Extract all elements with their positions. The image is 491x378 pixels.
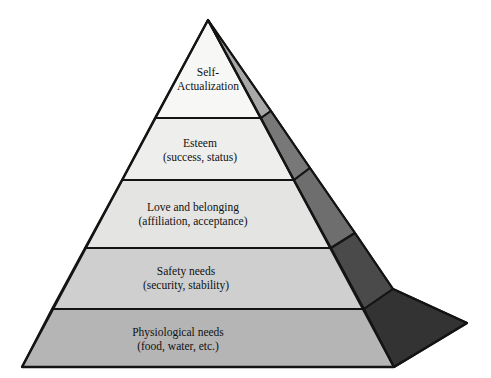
tier-label-line2: (security, stability): [0, 279, 372, 293]
tier-label-love-and-belonging: Love and belonging (affiliation, accepta…: [0, 201, 386, 228]
tier-label-line2: (affiliation, acceptance): [0, 215, 386, 229]
tier-label-self-actualization: Self- Actualization: [0, 66, 416, 93]
pyramid-diagram: Self- Actualization Esteem (success, sta…: [0, 0, 491, 378]
tier-label-line1: Safety needs: [0, 265, 372, 279]
tier-label-line2: (success, status): [0, 151, 400, 165]
tier-label-esteem: Esteem (success, status): [0, 137, 400, 164]
tier-label-line1: Physiological needs: [0, 326, 356, 340]
tier-label-line1: Esteem: [0, 137, 400, 151]
tier-label-line2: Actualization: [0, 80, 416, 94]
tier-label-line1: Self-: [0, 66, 416, 80]
tier-label-line2: (food, water, etc.): [0, 340, 356, 354]
tier-label-physiological-needs: Physiological needs (food, water, etc.): [0, 326, 356, 353]
pyramid-graphic: [0, 0, 491, 378]
tier-label-safety-needs: Safety needs (security, stability): [0, 265, 372, 292]
tier-label-line1: Love and belonging: [0, 201, 386, 215]
